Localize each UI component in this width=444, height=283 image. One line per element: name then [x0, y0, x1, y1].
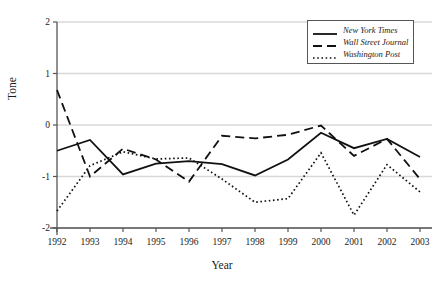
x-tick-label: 1997	[213, 237, 232, 247]
y-tick-label: -2	[30, 223, 50, 233]
y-tick-label: -1	[30, 172, 50, 182]
legend-line-swatch	[312, 49, 338, 59]
legend-item: Washington Post	[312, 48, 408, 60]
x-tick-label: 1999	[279, 237, 298, 247]
x-tick-label: 1993	[81, 237, 100, 247]
x-tick-label: 2003	[411, 237, 430, 247]
legend-item: Wall Street Journal	[312, 36, 408, 48]
x-tick-label: 2001	[345, 237, 364, 247]
x-tick-label: 1996	[180, 237, 199, 247]
x-tick-label: 1992	[48, 237, 67, 247]
legend-line-swatch	[312, 37, 338, 47]
x-axis-title: Year	[0, 259, 444, 271]
series-line	[57, 90, 420, 182]
x-tick-label: 1994	[114, 237, 133, 247]
chart-container: 210-1-2 19921993199419951996199719981999…	[0, 0, 444, 283]
series-line	[57, 133, 420, 176]
chart-legend: New York TimesWall Street JournalWashing…	[307, 20, 414, 64]
y-tick-label: 2	[30, 17, 50, 27]
y-tick-label: 1	[30, 69, 50, 79]
x-tick-label: 1995	[147, 237, 166, 247]
x-tick-label: 1998	[246, 237, 265, 247]
y-tick-label: 0	[30, 120, 50, 130]
legend-label: Washington Post	[343, 50, 400, 59]
x-tick-label: 2002	[378, 237, 397, 247]
x-tick-label: 2000	[312, 237, 331, 247]
legend-line-swatch	[312, 25, 338, 35]
data-series	[57, 90, 420, 215]
y-axis-title: Tone	[6, 77, 18, 100]
legend-item: New York Times	[312, 24, 408, 36]
legend-label: Wall Street Journal	[343, 38, 408, 47]
legend-label: New York Times	[343, 26, 397, 35]
